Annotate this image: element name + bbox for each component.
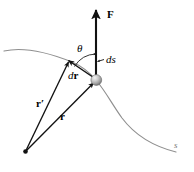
r-prime-arrow [26, 62, 69, 152]
physics-figure: F θ ds dr r′ r s [0, 0, 194, 172]
position-vector-label: r [60, 111, 65, 122]
trajectory-curve [4, 49, 176, 152]
theta-angle-label: θ [77, 43, 82, 54]
origin-dot [23, 149, 28, 154]
force-vector-label: F [107, 9, 114, 20]
particle-sphere [91, 75, 102, 86]
path-label: s [174, 141, 178, 150]
r-prime-vector-label: r′ [36, 98, 44, 109]
figure-canvas [0, 0, 194, 172]
dr-r-glyph: r [74, 69, 79, 81]
ds-leader-line [98, 60, 105, 62]
arc-length-label: ds [106, 54, 116, 65]
displacement-vector-label: dr [68, 70, 78, 81]
